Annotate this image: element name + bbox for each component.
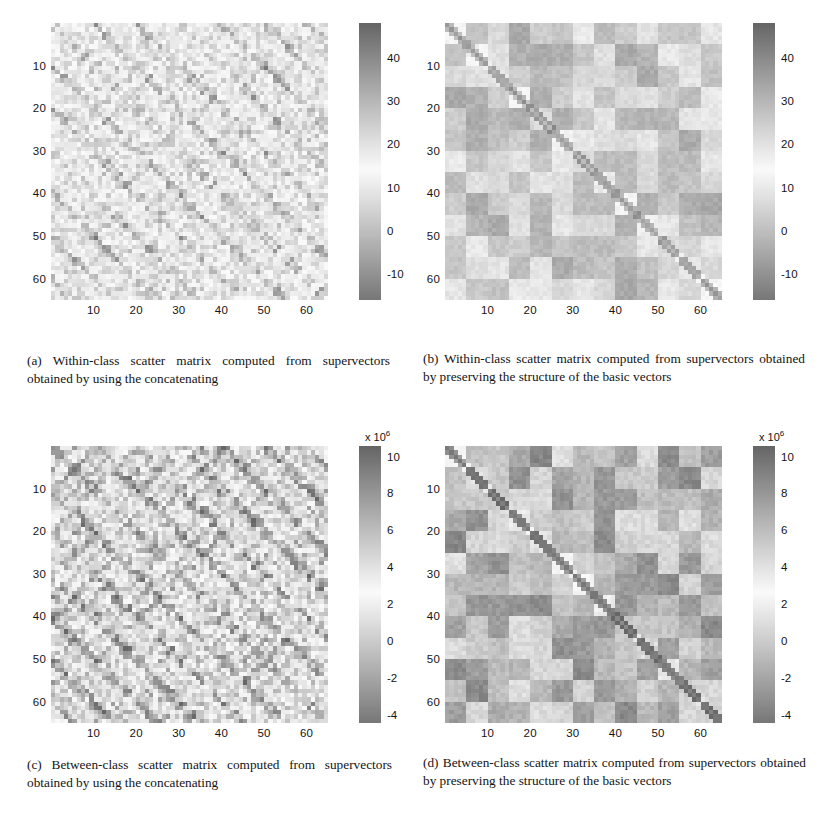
heatmap-b-xtick-60: 60 bbox=[694, 304, 707, 316]
colorbar-c-exponent: x 106 bbox=[365, 429, 390, 443]
heatmap-c-ytick-60: 60 bbox=[33, 696, 46, 708]
caption-a-label: (a) bbox=[27, 353, 42, 368]
colorbar-b-tick-20: 20 bbox=[781, 138, 794, 150]
heatmap-b-ytick-40: 40 bbox=[427, 187, 440, 199]
colorbar-b-tick-10: 10 bbox=[781, 182, 794, 194]
colorbar-c-gradient bbox=[359, 446, 381, 723]
heatmap-d-xtick-10: 10 bbox=[481, 727, 494, 739]
colorbar-d-gradient bbox=[753, 446, 775, 723]
heatmap-c-xtick-30: 30 bbox=[172, 727, 185, 739]
heatmap-b-xtick-50: 50 bbox=[651, 304, 664, 316]
colorbar-d-tick-4: 4 bbox=[781, 561, 787, 573]
heatmap-d-xtick-20: 20 bbox=[524, 727, 537, 739]
heatmap-c-ytick-10: 10 bbox=[33, 483, 46, 495]
heatmap-d-ytick-10: 10 bbox=[427, 483, 440, 495]
colorbar-b-tick-30: 30 bbox=[781, 95, 794, 107]
heatmap-b-ytick-60: 60 bbox=[427, 273, 440, 285]
caption-b: (b) Within-class scatter matrix computed… bbox=[423, 350, 805, 385]
heatmap-d-ytick-50: 50 bbox=[427, 653, 440, 665]
caption-a-text: Within-class scatter matrix computed fro… bbox=[27, 353, 390, 386]
heatmap-b-ytick-30: 30 bbox=[427, 145, 440, 157]
heatmap-c-xtick-20: 20 bbox=[130, 727, 143, 739]
colorbar-a-tick-20: 20 bbox=[387, 138, 400, 150]
colorbar-d-tick-8: 8 bbox=[781, 487, 787, 499]
subfigure-c: 10 20 30 40 50 60 10 20 30 40 50 60 x 10… bbox=[0, 420, 417, 839]
colorbar-c-tick-neg4: -4 bbox=[387, 709, 397, 721]
heatmap-d-ytick-40: 40 bbox=[427, 610, 440, 622]
heatmap-c-xtick-60: 60 bbox=[300, 727, 313, 739]
colorbar-d-tick-0: 0 bbox=[781, 635, 787, 647]
heatmap-a-ytick-60: 60 bbox=[33, 273, 46, 285]
caption-c-label: (c) bbox=[27, 757, 42, 772]
heatmap-a-xtick-20: 20 bbox=[130, 304, 143, 316]
caption-b-text: Within-class scatter matrix computed fro… bbox=[423, 351, 805, 384]
colorbar-d-tick-neg4: -4 bbox=[781, 709, 791, 721]
heatmap-a-ytick-10: 10 bbox=[33, 60, 46, 72]
colorbar-c-tick-neg2: -2 bbox=[387, 672, 397, 684]
colorbar-d-tick-2: 2 bbox=[781, 598, 787, 610]
subfigure-d: 10 20 30 40 50 60 10 20 30 40 50 60 x 10… bbox=[417, 420, 834, 839]
heatmap-b-ytick-10: 10 bbox=[427, 60, 440, 72]
colorbar-a-tick-0: 0 bbox=[387, 225, 393, 237]
caption-c-text: Between-class scatter matrix computed fr… bbox=[27, 757, 392, 790]
heatmap-a-ytick-20: 20 bbox=[33, 102, 46, 114]
heatmap-c-plot-area: 10 20 30 40 50 60 10 20 30 40 50 60 bbox=[51, 446, 328, 723]
heatmap-a-xtick-30: 30 bbox=[172, 304, 185, 316]
colorbar-a-tick-30: 30 bbox=[387, 95, 400, 107]
heatmap-b-xtick-10: 10 bbox=[481, 304, 494, 316]
caption-c: (c) Between-class scatter matrix compute… bbox=[27, 756, 392, 791]
heatmap-a-ytick-50: 50 bbox=[33, 230, 46, 242]
heatmap-b-ytick-20: 20 bbox=[427, 102, 440, 114]
heatmap-b-xtick-30: 30 bbox=[566, 304, 579, 316]
colorbar-b-gradient bbox=[753, 23, 775, 300]
colorbar-c-tick-10: 10 bbox=[387, 451, 400, 463]
heatmap-d-xtick-50: 50 bbox=[651, 727, 664, 739]
heatmap-c-xtick-40: 40 bbox=[215, 727, 228, 739]
heatmap-d-ytick-30: 30 bbox=[427, 568, 440, 580]
colorbar-b-tick-40: 40 bbox=[781, 52, 794, 64]
heatmap-a-ytick-30: 30 bbox=[33, 145, 46, 157]
heatmap-a-image bbox=[51, 23, 328, 300]
heatmap-a-plot-area: 10 20 30 40 50 60 10 20 30 40 50 60 bbox=[51, 23, 328, 300]
colorbar-c-tick-8: 8 bbox=[387, 487, 393, 499]
heatmap-c-ytick-20: 20 bbox=[33, 525, 46, 537]
heatmap-c-ytick-50: 50 bbox=[33, 653, 46, 665]
heatmap-c-xtick-50: 50 bbox=[257, 727, 270, 739]
caption-d-label: (d) bbox=[423, 755, 439, 770]
colorbar-a-tick-40: 40 bbox=[387, 52, 400, 64]
colorbar-c-tick-0: 0 bbox=[387, 635, 393, 647]
heatmap-a-xtick-10: 10 bbox=[87, 304, 100, 316]
heatmap-c-xtick-10: 10 bbox=[87, 727, 100, 739]
caption-b-label: (b) bbox=[423, 351, 439, 366]
colorbar-d-tick-6: 6 bbox=[781, 524, 787, 536]
heatmap-d-ytick-20: 20 bbox=[427, 525, 440, 537]
colorbar-c: x 106 10 8 6 4 2 0 -2 -4 bbox=[359, 446, 381, 723]
subfigure-a: 10 20 30 40 50 60 10 20 30 40 50 60 40 3… bbox=[0, 0, 417, 420]
colorbar-d-exponent: x 106 bbox=[759, 429, 784, 443]
caption-d-text: Between-class scatter matrix computed fr… bbox=[423, 755, 806, 788]
colorbar-b-tick-0: 0 bbox=[781, 225, 787, 237]
heatmap-d-plot-area: 10 20 30 40 50 60 10 20 30 40 50 60 bbox=[445, 446, 722, 723]
heatmap-b-xtick-20: 20 bbox=[524, 304, 537, 316]
colorbar-b: 40 30 20 10 0 -10 bbox=[753, 23, 775, 300]
heatmap-d-xtick-30: 30 bbox=[566, 727, 579, 739]
heatmap-a-ytick-40: 40 bbox=[33, 187, 46, 199]
colorbar-a-tick-neg10: -10 bbox=[387, 268, 404, 280]
heatmap-b-ytick-50: 50 bbox=[427, 230, 440, 242]
colorbar-d: x 106 10 8 6 4 2 0 -2 -4 bbox=[753, 446, 775, 723]
heatmap-a-xtick-60: 60 bbox=[300, 304, 313, 316]
heatmap-a-xtick-40: 40 bbox=[215, 304, 228, 316]
colorbar-d-tick-neg2: -2 bbox=[781, 672, 791, 684]
heatmap-c-image bbox=[51, 446, 328, 723]
caption-d: (d) Between-class scatter matrix compute… bbox=[423, 754, 806, 789]
colorbar-d-tick-10: 10 bbox=[781, 451, 794, 463]
figure-root: 10 20 30 40 50 60 10 20 30 40 50 60 40 3… bbox=[0, 0, 834, 839]
colorbar-c-tick-2: 2 bbox=[387, 598, 393, 610]
subfigure-b: 10 20 30 40 50 60 10 20 30 40 50 60 40 3… bbox=[417, 0, 834, 420]
colorbar-c-tick-4: 4 bbox=[387, 561, 393, 573]
colorbar-b-tick-neg10: -10 bbox=[781, 268, 798, 280]
heatmap-d-xtick-40: 40 bbox=[609, 727, 622, 739]
heatmap-c-ytick-30: 30 bbox=[33, 568, 46, 580]
heatmap-d-ytick-60: 60 bbox=[427, 696, 440, 708]
caption-a: (a) Within-class scatter matrix computed… bbox=[27, 352, 390, 387]
